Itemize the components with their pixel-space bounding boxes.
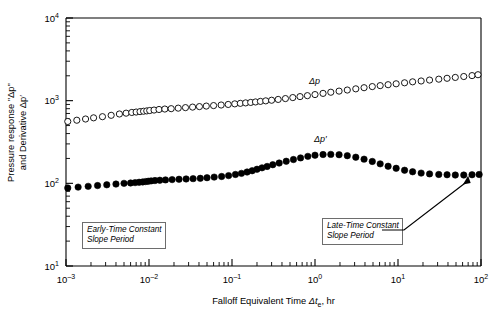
data-point <box>65 118 71 124</box>
data-point <box>344 152 350 158</box>
data-point <box>410 79 416 85</box>
data-point <box>168 106 174 112</box>
data-point <box>269 97 275 103</box>
y-tick-label: 103 <box>45 94 60 106</box>
data-point <box>444 75 450 81</box>
exponent: 0 <box>318 273 322 280</box>
exponent: 1 <box>55 260 59 267</box>
data-point <box>276 160 282 166</box>
data-point <box>225 101 231 107</box>
data-point <box>75 184 81 190</box>
x-tick-label: 10–1 <box>223 273 241 285</box>
data-point <box>385 163 391 169</box>
data-point <box>452 74 458 80</box>
data-point <box>436 171 442 177</box>
exponent: –1 <box>233 273 241 280</box>
data-point <box>461 172 467 178</box>
data-point <box>85 183 91 189</box>
data-point <box>305 153 311 159</box>
series-delta-p <box>65 72 481 125</box>
data-point <box>232 171 238 177</box>
y-tick-label: 104 <box>45 12 60 24</box>
y-tick-label: 101 <box>45 260 60 272</box>
data-point <box>162 177 168 183</box>
data-point <box>65 185 71 191</box>
data-point <box>336 152 342 158</box>
exponent: 3 <box>55 94 59 101</box>
annotation-leader-line <box>382 181 468 230</box>
data-point <box>401 167 407 173</box>
data-point <box>369 158 375 164</box>
data-point <box>190 175 196 181</box>
data-point <box>203 103 209 109</box>
data-point <box>475 72 481 78</box>
data-point <box>196 103 202 109</box>
data-point <box>344 87 350 93</box>
data-point <box>426 77 432 83</box>
data-point <box>328 151 334 157</box>
data-point <box>361 156 367 162</box>
data-point <box>275 96 281 102</box>
exponent: 4 <box>55 12 59 19</box>
data-point <box>74 117 80 123</box>
x-tick-label: 100 <box>308 273 323 285</box>
data-point <box>121 180 127 186</box>
x-tick-label: 102 <box>474 273 489 285</box>
data-point <box>328 89 334 95</box>
data-point <box>336 88 342 94</box>
data-point <box>393 165 399 171</box>
data-point <box>461 73 467 79</box>
data-point <box>353 154 359 160</box>
data-point <box>204 175 210 181</box>
exponent: 2 <box>55 177 59 184</box>
data-point <box>469 73 475 79</box>
data-point <box>436 76 442 82</box>
exponent: 2 <box>484 273 488 280</box>
plot-group: 10–310–210–1100101102101102103104 <box>45 12 489 286</box>
data-point <box>469 172 475 178</box>
data-point <box>444 172 450 178</box>
exponent: –3 <box>67 273 75 280</box>
data-point <box>104 182 110 188</box>
data-point <box>320 151 326 157</box>
data-point <box>169 176 175 182</box>
data-point <box>238 170 244 176</box>
data-point <box>401 80 407 86</box>
data-point <box>156 106 162 112</box>
data-point <box>312 152 318 158</box>
data-point <box>225 172 231 178</box>
data-point <box>282 95 288 101</box>
chart-figure: Pressure response "Δp" and Derivative Δp… <box>0 0 503 320</box>
x-tick-label: 101 <box>391 273 406 285</box>
data-point <box>162 106 168 112</box>
data-point <box>113 181 119 187</box>
data-point <box>263 98 269 104</box>
data-point <box>218 102 224 108</box>
data-point <box>361 85 367 91</box>
data-point <box>418 78 424 84</box>
data-point <box>99 114 105 120</box>
data-point <box>283 158 289 164</box>
data-point <box>297 94 303 100</box>
data-point <box>312 91 318 97</box>
data-point <box>409 169 415 175</box>
data-point <box>353 86 359 92</box>
data-point <box>290 156 296 162</box>
data-point <box>297 155 303 161</box>
data-point <box>452 172 458 178</box>
data-point <box>123 110 129 116</box>
plot-canvas: 10–310–210–1100101102101102103104 <box>0 0 503 320</box>
data-point <box>211 174 217 180</box>
data-point <box>320 90 326 96</box>
data-point <box>385 82 391 88</box>
data-point <box>426 171 432 177</box>
series-delta-p-prime <box>65 151 483 191</box>
data-point <box>94 182 100 188</box>
data-point <box>90 115 96 121</box>
data-point <box>116 111 122 117</box>
data-point <box>108 112 114 118</box>
exponent: 1 <box>401 273 405 280</box>
exponent: –2 <box>150 273 158 280</box>
data-point <box>377 83 383 89</box>
data-point <box>270 162 276 168</box>
